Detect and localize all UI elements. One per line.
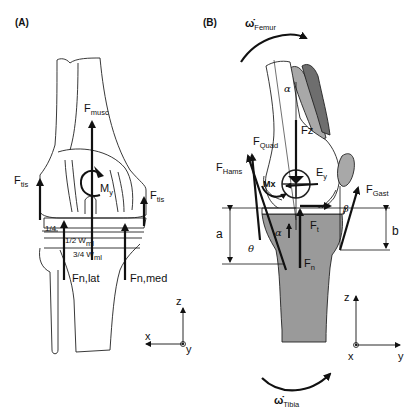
f-tis-right-base: F — [150, 189, 157, 201]
dim-quarter-label: 1/4 — [45, 225, 56, 233]
axis-b-x-label: x — [348, 351, 354, 362]
omega-femur-sub: Femur — [254, 23, 276, 32]
f-gast-label: FGast — [366, 184, 389, 198]
f-gast-sub: Gast — [373, 189, 389, 198]
f-tis-left-base: F — [14, 174, 21, 186]
omega-femur-base: ω̇ — [245, 17, 254, 29]
f-n-base: F — [304, 257, 311, 269]
f-musc-base: F — [84, 102, 91, 114]
f-t-base: F — [310, 219, 317, 231]
panel-a-label: (A) — [15, 18, 29, 28]
f-quad-label: FQuad — [253, 136, 278, 150]
omega-tibia-label: ω̇Tibia — [274, 395, 299, 409]
omega-tibia-base: ω̇ — [274, 394, 283, 406]
beta-label: β — [343, 204, 349, 214]
panel-b-drawing — [262, 61, 354, 342]
e-y-sub: y — [323, 172, 327, 181]
omega-femur-label: ω̇Femur — [245, 18, 276, 32]
dim-b-label: b — [392, 225, 399, 237]
f-t-label: Ft — [310, 220, 319, 234]
omega-tibia-sub: Tibia — [283, 400, 299, 409]
f-hams-base: F — [216, 161, 223, 173]
f-n-label: Fn — [304, 258, 315, 272]
m-y-label: My — [100, 183, 113, 197]
patella — [338, 154, 355, 187]
axis-a-y-label: y — [186, 344, 192, 355]
axis-b-z-label: z — [344, 292, 350, 303]
dim-three-quarter-base: 3/4 W — [73, 250, 94, 259]
dim-half-sub: ml — [86, 239, 94, 248]
knee-biomechanics-figure: (A) Fmusc Ftis Ftis My 1/4 1/2 Wml 3/4 W… — [0, 0, 414, 418]
dim-a-label: a — [216, 228, 223, 240]
alpha-tibia-label: α — [275, 228, 282, 238]
axis-b-y-label: y — [398, 351, 404, 362]
f-tis-right-sub: tis — [157, 195, 165, 204]
f-tis-left-label: Ftis — [14, 175, 28, 189]
f-tis-left-sub: tis — [21, 180, 29, 189]
dim-three-quarter-label: 3/4 Wml — [73, 251, 102, 262]
dim-half-base: 1/2 W — [65, 236, 86, 245]
fz-label: Fz — [301, 125, 313, 136]
f-musc-label: Fmusc — [84, 103, 109, 117]
alpha-femur-label: α — [284, 84, 291, 94]
f-hams-label: FHams — [216, 162, 242, 176]
f-gast-base: F — [366, 183, 373, 195]
f-t-sub: t — [317, 225, 319, 234]
f-tis-right-label: Ftis — [150, 190, 164, 204]
fn-med-label: Fn,med — [130, 273, 167, 284]
axis-a-x-label: x — [145, 331, 151, 342]
f-musc-sub: musc — [91, 108, 109, 117]
dim-three-quarter-sub: ml — [94, 253, 102, 262]
f-n-sub: n — [311, 263, 315, 272]
m-x-label: Mx — [263, 180, 276, 189]
dim-half-label: 1/2 Wml — [65, 237, 94, 248]
panel-b-label: (B) — [203, 18, 217, 28]
theta-label: θ — [248, 244, 254, 254]
e-y-label: Ey — [316, 167, 327, 181]
fn-lat-label: Fn,lat — [72, 273, 100, 284]
axis-a-z-label: z — [176, 296, 182, 307]
m-y-sub: y — [109, 188, 113, 197]
f-hams-sub: Hams — [223, 167, 243, 176]
f-quad-sub: Quad — [260, 141, 278, 150]
m-y-base: M — [100, 182, 109, 194]
f-quad-base: F — [253, 135, 260, 147]
